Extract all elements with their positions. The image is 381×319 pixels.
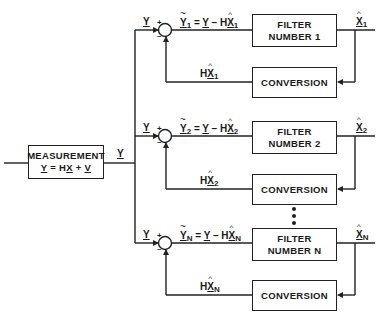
branch-n-minus-sign: – bbox=[157, 244, 161, 253]
branch-n-residual-equation: YN = Y – HXN bbox=[180, 230, 241, 244]
conversion-block-2: CONVERSION bbox=[252, 174, 337, 205]
branch-2-estimate-output: X2 bbox=[356, 122, 367, 136]
filter-block-n: FILTER NUMBER N bbox=[252, 228, 337, 261]
branch-1-minus-sign: – bbox=[157, 31, 161, 40]
branch-1-plus-sign: + bbox=[157, 18, 162, 27]
filter-block-1: FILTER NUMBER 1 bbox=[252, 14, 337, 47]
branch-2-minus-sign: – bbox=[157, 137, 161, 146]
branch-n-input-label: Y bbox=[143, 229, 150, 240]
branch-1-input-label: Y bbox=[143, 16, 150, 27]
branch-n-plus-sign: + bbox=[157, 231, 162, 240]
branch-n-feedback-label: HXN bbox=[200, 281, 220, 295]
branch-1-estimate-output: X1 bbox=[356, 16, 367, 30]
vertical-ellipsis-icon bbox=[291, 207, 297, 225]
conversion-block-n: CONVERSION bbox=[252, 280, 337, 311]
branch-2-input-label: Y bbox=[143, 122, 150, 133]
branch-2-plus-sign: + bbox=[157, 124, 162, 133]
branch-2-feedback-label: HX2 bbox=[200, 175, 218, 189]
measurement-equation: Y = HX + V bbox=[41, 162, 91, 174]
filter-block-2: FILTER NUMBER 2 bbox=[252, 121, 337, 154]
measurement-title: MEASUREMENT bbox=[27, 150, 105, 162]
branch-2-residual-equation: Y2 = Y – HX2 bbox=[180, 123, 238, 137]
branch-n-estimate-output: XN bbox=[356, 229, 368, 243]
measurement-block: MEASUREMENT Y = HX + V bbox=[28, 145, 104, 179]
conversion-block-1: CONVERSION bbox=[252, 67, 337, 98]
branch-1-residual-equation: Y1 = Y – HX1 bbox=[180, 17, 238, 31]
branch-1-feedback-label: HX1 bbox=[200, 68, 218, 82]
measurement-output-label: Y bbox=[117, 148, 124, 159]
